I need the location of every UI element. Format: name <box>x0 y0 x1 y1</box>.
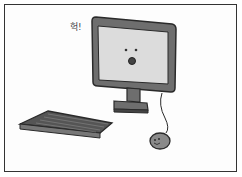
eye-right <box>135 49 138 52</box>
mouth <box>129 58 136 65</box>
monitor-icon <box>92 17 176 113</box>
computer-illustration <box>0 0 242 177</box>
keyboard-icon <box>20 111 112 138</box>
eye-left <box>125 49 128 52</box>
mouse-icon <box>150 93 170 149</box>
